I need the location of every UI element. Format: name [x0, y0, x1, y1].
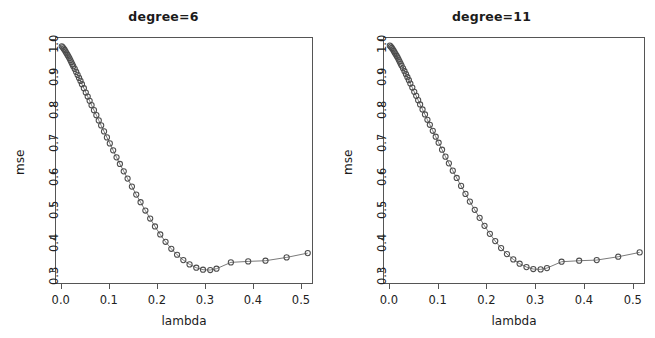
x-axis-tick-label: 0.0 — [41, 293, 81, 307]
y-axis-tick-label: 1.0 — [47, 34, 61, 52]
x-axis-tick-label: 0.5 — [613, 293, 653, 307]
y-axis-title: mse — [341, 149, 355, 174]
data-line — [62, 46, 308, 270]
x-axis-title: lambda — [383, 314, 645, 328]
x-axis-tick — [157, 284, 158, 289]
series-plot — [384, 38, 646, 285]
y-axis-tick-label: 0.5 — [47, 201, 61, 219]
x-axis-tick — [389, 284, 390, 289]
y-axis-tick-label: 0.3 — [375, 267, 389, 285]
plot-area — [55, 37, 313, 284]
x-axis-tick — [109, 284, 110, 289]
x-axis-tick-label: 0.2 — [466, 293, 506, 307]
panel-title: degree=11 — [328, 9, 655, 24]
x-axis-tick-label: 0.3 — [185, 293, 225, 307]
y-axis-tick-label: 0.7 — [375, 134, 389, 152]
y-axis-tick-label: 0.5 — [375, 201, 389, 219]
y-axis-tick-label: 0.9 — [47, 68, 61, 86]
y-axis-tick-label: 0.9 — [375, 68, 389, 86]
y-axis-tick-label: 0.4 — [47, 234, 61, 252]
x-axis-tick — [486, 284, 487, 289]
x-axis-tick-label: 0.4 — [233, 293, 273, 307]
panel-title: degree=6 — [0, 9, 327, 24]
x-axis-tick-label: 0.3 — [515, 293, 555, 307]
x-axis-tick — [205, 284, 206, 289]
x-axis-tick-label: 0.1 — [418, 293, 458, 307]
panel-degree-6: degree=6 0.30.40.50.60.70.80.91.00.00.10… — [0, 0, 327, 338]
y-axis-tick-label: 1.0 — [375, 34, 389, 52]
y-axis-title: mse — [13, 149, 27, 174]
x-axis-tick — [535, 284, 536, 289]
y-axis-tick-label: 0.6 — [47, 167, 61, 185]
x-axis-tick-label: 0.4 — [564, 293, 604, 307]
x-axis-tick — [253, 284, 254, 289]
y-axis-tick-label: 0.7 — [47, 134, 61, 152]
y-axis-tick-label: 0.8 — [375, 101, 389, 119]
x-axis-tick — [438, 284, 439, 289]
plot-area — [383, 37, 645, 284]
y-axis-tick-label: 0.3 — [47, 267, 61, 285]
x-axis-tick — [633, 284, 634, 289]
x-axis-tick — [584, 284, 585, 289]
data-line — [390, 46, 640, 270]
x-axis-tick — [61, 284, 62, 289]
figure-two-panel-mse-vs-lambda: degree=6 0.30.40.50.60.70.80.91.00.00.10… — [0, 0, 655, 338]
x-axis-tick-label: 0.2 — [137, 293, 177, 307]
series-plot — [56, 38, 314, 285]
x-axis-tick-label: 0.1 — [89, 293, 129, 307]
y-axis-tick-label: 0.6 — [375, 167, 389, 185]
y-axis-tick-label: 0.8 — [47, 101, 61, 119]
x-axis-tick-label: 0.0 — [369, 293, 409, 307]
y-axis-tick-label: 0.4 — [375, 234, 389, 252]
x-axis-tick — [301, 284, 302, 289]
x-axis-title: lambda — [55, 314, 313, 328]
x-axis-tick-label: 0.5 — [281, 293, 321, 307]
panel-degree-11: degree=11 0.30.40.50.60.70.80.91.00.00.1… — [328, 0, 655, 338]
